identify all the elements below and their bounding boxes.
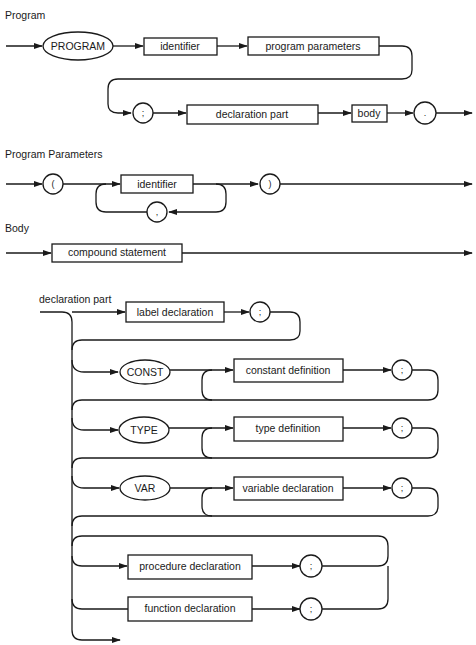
type-keyword-node: TYPE — [119, 417, 169, 443]
comma-node: , — [147, 202, 167, 222]
program-parameters-node: program parameters — [248, 37, 379, 55]
open-paren-node: ( — [43, 174, 63, 194]
declaration-part-title: declaration part — [39, 293, 111, 305]
svg-text:;: ; — [142, 108, 145, 118]
label-declaration-label: label declaration — [137, 306, 214, 318]
variable-declaration-label: variable declaration — [242, 482, 333, 494]
type-definition-label: type definition — [256, 422, 321, 434]
program-parameters-title: Program Parameters — [5, 148, 102, 160]
compound-statement-label: compound statement — [68, 246, 166, 258]
svg-text:;: ; — [310, 604, 313, 614]
svg-text:.: . — [424, 108, 427, 118]
period-node: . — [414, 102, 436, 124]
param-identifier-node: identifier — [121, 175, 193, 193]
constant-definition-label: constant definition — [246, 364, 331, 376]
svg-text:;: ; — [401, 423, 404, 433]
var-keyword-node: VAR — [120, 476, 170, 500]
body-diagram: Body compound statement — [5, 222, 472, 262]
procedure-declaration-node: procedure declaration — [128, 555, 252, 579]
var-semicolon-node: ; — [392, 478, 412, 498]
function-declaration-label: function declaration — [144, 602, 235, 614]
program-semicolon-node: ; — [133, 103, 153, 123]
type-definition-node: type definition — [234, 417, 343, 441]
svg-text:;: ; — [310, 561, 313, 571]
svg-text:;: ; — [259, 307, 262, 317]
param-identifier: identifier — [137, 178, 177, 190]
function-semicolon-node: ; — [300, 598, 322, 620]
svg-text:,: , — [156, 207, 159, 217]
program-title: Program — [5, 9, 46, 21]
svg-text:(: ( — [52, 179, 55, 189]
body-label: body — [358, 107, 382, 119]
variable-declaration-node: variable declaration — [234, 477, 343, 500]
close-paren-node: ) — [260, 174, 280, 194]
const-semicolon-node: ; — [392, 360, 412, 380]
type-keyword: TYPE — [130, 424, 157, 436]
body-title: Body — [5, 222, 30, 234]
program-diagram: Program PROGRAM identifier program param… — [5, 9, 472, 124]
program-keyword-node: PROGRAM — [43, 32, 113, 60]
const-keyword-node: CONST — [120, 360, 170, 384]
procedure-declaration-label: procedure declaration — [139, 560, 241, 572]
program-identifier-node: identifier — [144, 38, 217, 55]
svg-text:): ) — [269, 179, 272, 189]
type-semicolon-node: ; — [392, 418, 412, 438]
body-node: body — [352, 105, 387, 122]
syntax-diagram: Program PROGRAM identifier program param… — [0, 0, 476, 645]
var-keyword: VAR — [135, 482, 156, 494]
program-keyword: PROGRAM — [51, 40, 105, 52]
svg-text:;: ; — [401, 365, 404, 375]
procedure-semicolon-node: ; — [300, 555, 322, 577]
compound-statement-node: compound statement — [52, 244, 182, 262]
declaration-part-node: declaration part — [187, 105, 318, 124]
program-identifier: identifier — [160, 40, 200, 52]
declaration-part-label: declaration part — [216, 108, 288, 120]
constant-definition-node: constant definition — [234, 359, 343, 382]
program-parameters-label: program parameters — [265, 40, 360, 52]
declaration-part-diagram: declaration part label declaration ; CON… — [39, 293, 438, 640]
const-keyword: CONST — [127, 366, 164, 378]
svg-text:;: ; — [401, 483, 404, 493]
label-semicolon-node: ; — [250, 302, 270, 322]
label-declaration-node: label declaration — [126, 302, 224, 322]
program-parameters-diagram: Program Parameters ( identifier , ) — [5, 148, 472, 222]
function-declaration-node: function declaration — [128, 597, 252, 621]
